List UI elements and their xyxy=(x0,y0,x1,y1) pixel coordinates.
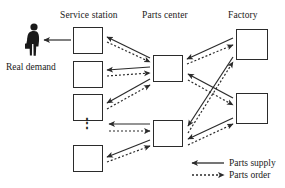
businessperson-with-briefcase-icon xyxy=(22,22,46,62)
edge-order-ss4-pc2 xyxy=(107,146,150,162)
edge-order-pc1-f1 xyxy=(187,45,233,64)
factory-node-1[interactable] xyxy=(236,29,268,60)
edge-order-ss2-pc1 xyxy=(107,73,150,76)
service-station-node-4[interactable] xyxy=(73,145,103,172)
column-header-factory: Factory xyxy=(228,10,258,20)
legend-label-parts-order: Parts order xyxy=(229,170,270,180)
edge-order-ss1-pc1 xyxy=(107,42,150,62)
edge-supply-pc1-ss2 xyxy=(107,67,150,70)
edge-supply-f2-pc1 xyxy=(188,74,233,98)
edge-order-ss3-pc1 xyxy=(107,85,150,109)
edge-supply-pc1-ss3 xyxy=(107,79,150,103)
edge-supply-f1-pc2 xyxy=(188,57,233,126)
service-station-node-2[interactable] xyxy=(73,61,103,88)
column-header-parts-center: Parts center xyxy=(142,10,188,20)
edge-order-pc2-f1 xyxy=(188,62,233,133)
edge-supply-pc1-ss1 xyxy=(107,37,150,58)
parts-center-node-1[interactable] xyxy=(153,55,183,82)
ellipsis-glyph: ⋮ xyxy=(81,120,91,127)
service-station-ellipsis: ⋮ xyxy=(81,120,91,127)
edge-order-pc2-f2 xyxy=(188,124,233,145)
supply-chain-diagram: Service station Parts center Factory Rea… xyxy=(0,0,285,188)
edge-supply-f1-pc1 xyxy=(187,38,233,59)
factory-node-2[interactable] xyxy=(236,93,268,124)
column-header-service-station: Service station xyxy=(60,10,118,20)
edge-supply-pc2-ss4 xyxy=(107,140,150,157)
parts-center-node-2[interactable] xyxy=(153,120,183,147)
real-demand-label: Real demand xyxy=(6,62,56,72)
service-station-node-1[interactable] xyxy=(73,27,103,54)
legend-label-parts-supply: Parts supply xyxy=(229,158,276,168)
edge-supply-f2-pc2 xyxy=(188,118,233,139)
edge-order-pc1-f2 xyxy=(188,80,233,105)
